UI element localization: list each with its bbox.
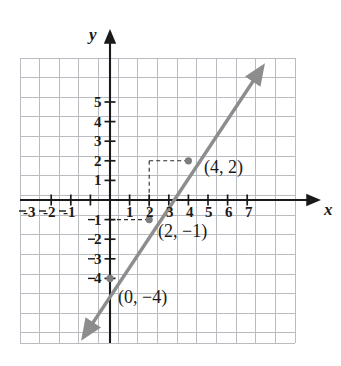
y-tick-label: 4 [94,115,102,130]
y-tick-label-negative: 4 [94,271,102,286]
x-tick-label: 5 [205,205,213,220]
x-tick-label: 6 [225,205,233,220]
point-label-0-neg4: (0, −4) [118,288,167,306]
point-label-4-2: (4, 2) [204,158,243,176]
x-tick-label: -2 [43,205,56,220]
point-4-2 [185,157,192,164]
y-tick-label-negative: 3 [94,252,102,267]
y-tick-label: 3 [94,134,102,149]
x-tick-label: -3 [23,205,36,220]
x-tick-label: 4 [186,205,194,220]
x-tick-label: -1 [63,205,76,220]
y-tick-label: 1 [94,173,102,188]
point-label-2-neg1: (2, −1) [158,222,207,240]
y-tick-label: 5 [94,95,102,110]
point-0-neg4 [106,275,113,282]
y-tick-label-negative: 1 [94,213,102,228]
x-axis-label: x [324,201,333,218]
y-tick-label-negative: 2 [94,232,102,247]
coordinate-plane-figure: -3 -2 -1 1 2 3 4 5 6 7 5 4 3 2 1 1 2 3 4… [0,0,341,366]
x-tick-label: 7 [245,205,253,220]
x-tick-label: 3 [166,205,174,220]
x-tick-label: 2 [146,205,154,220]
x-tick-label: 1 [126,205,134,220]
y-tick-label: 2 [94,154,102,169]
graph-canvas [0,0,341,366]
y-axis-label: y [89,26,97,43]
